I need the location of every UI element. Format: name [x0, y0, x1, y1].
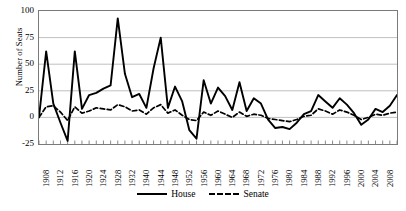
x-tick-label: 1916: [71, 170, 80, 187]
chart-container: Number of Seats 1007550250-25 1908191219…: [0, 0, 406, 211]
plot-area: [38, 10, 398, 145]
y-axis-tick-labels: 1007550250-25: [12, 0, 34, 211]
x-tick-label: 1928: [114, 170, 123, 187]
x-tick-label: 1908: [42, 170, 51, 187]
x-tick-label: 1944: [157, 170, 166, 187]
x-tick-label: 1980: [285, 170, 294, 187]
series-line-senate: [39, 105, 397, 122]
x-tick-label: 1956: [200, 170, 209, 187]
x-axis-tick-labels: 1908191219161920192419281932194019441948…: [38, 147, 398, 191]
y-tick-label: -25: [12, 139, 34, 148]
senate-line-swatch-icon: [209, 193, 239, 195]
x-tick-label: 1940: [142, 170, 151, 187]
x-tick-label: 1964: [228, 170, 237, 187]
x-tick-label: 1976: [271, 170, 280, 187]
y-tick-label: 50: [12, 59, 34, 68]
x-tick-label: 2000: [357, 170, 366, 187]
x-tick-label: 1960: [214, 170, 223, 187]
x-tick-label: 1948: [171, 170, 180, 187]
x-tick-label: 1984: [300, 170, 309, 187]
legend-item-senate: Senate: [209, 189, 268, 199]
y-tick-label: 100: [12, 6, 34, 15]
legend-item-house: House: [137, 189, 195, 199]
legend-label-house: House: [171, 189, 195, 199]
x-tick-label: 1912: [56, 170, 65, 187]
x-tick-label: 1968: [242, 170, 251, 187]
x-tick-label: 1972: [257, 170, 266, 187]
chart-legend: House Senate: [0, 189, 406, 199]
x-tick-label: 1996: [343, 170, 352, 187]
legend-label-senate: Senate: [243, 189, 268, 199]
y-tick-label: 75: [12, 33, 34, 42]
x-tick-label: 1992: [328, 170, 337, 187]
x-tick-label: 1932: [128, 170, 137, 187]
y-tick-label: 25: [12, 86, 34, 95]
house-line-swatch-icon: [137, 193, 167, 195]
x-tick-label: 1988: [314, 170, 323, 187]
x-tick-label: 2008: [386, 170, 395, 187]
series-line-house: [39, 18, 397, 140]
x-tick-label: 2004: [371, 170, 380, 187]
series-canvas: [39, 11, 397, 144]
x-tick-label: 1952: [185, 170, 194, 187]
x-tick-label: 1924: [99, 170, 108, 187]
y-tick-label: 0: [12, 112, 34, 121]
x-tick-label: 1920: [85, 170, 94, 187]
